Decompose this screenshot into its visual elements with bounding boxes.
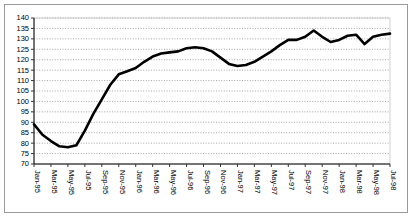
gridlines-group [34, 18, 390, 154]
x-tick-label-Jan-97: Jan-97 [236, 170, 245, 193]
x-tick-label-Sep-97: Sep-97 [304, 170, 313, 194]
x-tick-label-Mar-96: Mar-96 [152, 170, 161, 194]
x-tick-label-Mar-97: Mar-97 [253, 170, 262, 194]
x-tick-label-Sep-95: Sep-95 [101, 170, 110, 194]
x-tick-label-Nov-95: Nov-95 [118, 170, 127, 194]
y-tick-label-105: 105 [16, 86, 29, 95]
y-tick-label-130: 130 [16, 34, 29, 43]
x-tick-label-May-96: May-96 [169, 170, 178, 195]
x-tick-label-May-97: May-97 [270, 170, 279, 195]
y-tick-label-125: 125 [16, 45, 29, 54]
x-tick-label-Jul-97: Jul-97 [287, 170, 296, 190]
chart-plot-area: 707580859095100105110115120125130135140 … [5, 5, 409, 214]
y-tick-label-75: 75 [21, 149, 29, 158]
x-axis-labels-group: Jan-95Mar-95May-95Jul-95Sep-95Nov-95Jan-… [33, 170, 398, 195]
y-axis-labels-group: 707580859095100105110115120125130135140 [16, 13, 29, 168]
x-tick-label-May-95: May-95 [67, 170, 76, 195]
y-tick-label-95: 95 [21, 107, 29, 116]
x-tick-label-Jul-95: Jul-95 [84, 170, 93, 190]
y-tick-label-115: 115 [17, 66, 29, 75]
x-tick-label-Jan-95: Jan-95 [33, 170, 42, 193]
x-tick-label-May-98: May-98 [372, 170, 381, 195]
y-tick-label-120: 120 [16, 55, 29, 64]
x-tick-label-Jul-98: Jul-98 [389, 170, 398, 190]
y-tick-label-70: 70 [21, 159, 29, 168]
y-tick-label-135: 135 [16, 24, 29, 33]
y-tick-label-85: 85 [21, 128, 29, 137]
x-tick-label-Jan-98: Jan-98 [338, 170, 347, 193]
x-tick-label-Mar-98: Mar-98 [355, 170, 364, 194]
y-tick-label-80: 80 [21, 139, 29, 148]
x-tick-label-Mar-95: Mar-95 [50, 170, 59, 194]
y-tick-label-100: 100 [16, 97, 29, 106]
x-tick-label-Sep-96: Sep-96 [203, 170, 212, 194]
x-tick-label-Jul-96: Jul-96 [186, 170, 195, 190]
y-tick-label-90: 90 [21, 118, 29, 127]
y-tick-label-140: 140 [16, 13, 29, 22]
line-chart: 707580859095100105110115120125130135140 … [5, 5, 409, 214]
x-tick-label-Nov-97: Nov-97 [321, 170, 330, 194]
data-series-line [34, 31, 390, 148]
chart-frame: 707580859095100105110115120125130135140 … [4, 4, 408, 213]
y-tick-label-110: 110 [17, 76, 29, 85]
x-tick-label-Nov-96: Nov-96 [219, 170, 228, 194]
x-tick-label-Jan-96: Jan-96 [135, 170, 144, 193]
